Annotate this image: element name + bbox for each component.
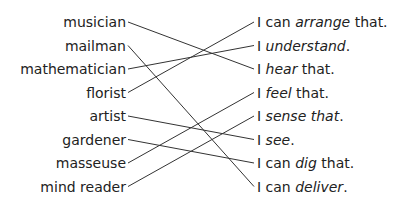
left-item: mathematician bbox=[20, 60, 126, 78]
right-item: I can deliver. bbox=[257, 178, 348, 196]
connection-line bbox=[128, 22, 254, 93]
left-item: mind reader bbox=[40, 178, 126, 196]
left-item: musician bbox=[63, 13, 126, 31]
right-item: I can arrange that. bbox=[257, 13, 388, 31]
right-item: I see. bbox=[257, 131, 295, 149]
connection-line bbox=[128, 46, 254, 187]
right-item: I hear that. bbox=[257, 60, 335, 78]
connection-line bbox=[128, 22, 254, 69]
left-item: artist bbox=[90, 107, 127, 125]
right-item: I sense that. bbox=[257, 107, 344, 125]
left-item: masseuse bbox=[56, 154, 126, 172]
connection-line bbox=[128, 116, 254, 187]
right-item: I understand. bbox=[257, 37, 350, 55]
left-item: gardener bbox=[62, 131, 126, 149]
right-item: I feel that. bbox=[257, 84, 329, 102]
left-item: mailman bbox=[65, 37, 126, 55]
left-item: florist bbox=[86, 84, 126, 102]
connection-line bbox=[128, 93, 254, 164]
right-item: I can dig that. bbox=[257, 154, 354, 172]
